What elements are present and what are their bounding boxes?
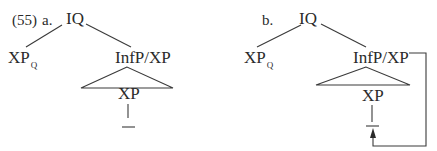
subscript: Q	[267, 60, 274, 70]
tree-b-left-child: XPQ	[244, 49, 273, 69]
arrowhead-icon	[370, 128, 376, 138]
triangle-b	[316, 67, 410, 85]
node-text: XP	[8, 48, 30, 67]
tree-a-left-child: XPQ	[8, 49, 37, 69]
subscript: Q	[31, 60, 38, 70]
tree-b-triangle-label: XP	[362, 87, 384, 104]
node-text: XP	[244, 48, 266, 67]
example-number: (55)	[12, 12, 37, 29]
branch-iq-infp-b	[321, 24, 366, 47]
tree-a-root: IQ	[66, 10, 84, 27]
tree-a-right-child: InfP/XP	[115, 49, 171, 66]
branch-iq-infp-a	[86, 24, 131, 47]
tree-b-label: b.	[262, 12, 273, 29]
tree-a-triangle-label: XP	[118, 85, 140, 102]
tree-a-label: a.	[42, 12, 52, 29]
tree-b-root: IQ	[299, 10, 317, 27]
tree-b-right-child: InfP/XP	[353, 49, 409, 66]
